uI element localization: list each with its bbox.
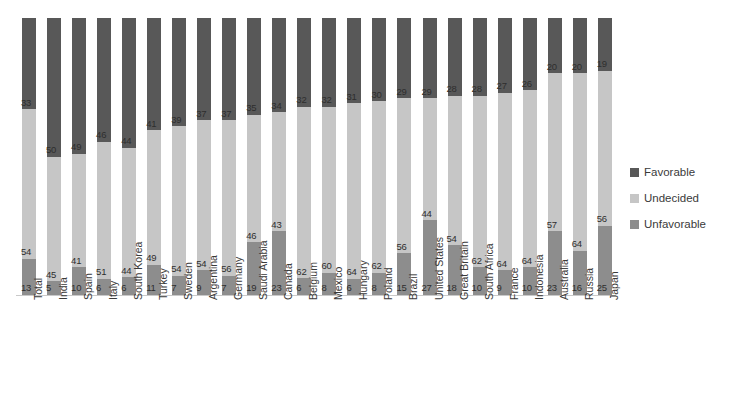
value-label-undecided: 64 bbox=[497, 259, 507, 269]
bar-segment-undecided: 54 bbox=[448, 96, 462, 246]
x-tick-label: United States bbox=[434, 237, 445, 300]
value-label-favorable: 50 bbox=[46, 145, 56, 155]
value-label-favorable: 19 bbox=[597, 59, 607, 69]
x-tick-sweden: Sweden bbox=[172, 298, 186, 406]
bar-segment-favorable: 28 bbox=[448, 18, 462, 96]
bar-segment-undecided: 44 bbox=[423, 98, 437, 220]
value-label-undecided: 57 bbox=[547, 220, 557, 230]
value-label-undecided: 62 bbox=[371, 261, 381, 271]
bar-group: 39547 bbox=[172, 18, 186, 295]
bar-group: 205723 bbox=[548, 18, 562, 295]
value-label-unfavorable: 27 bbox=[422, 283, 432, 293]
value-label-undecided: 64 bbox=[522, 256, 532, 266]
x-tick-label: Great Britain bbox=[459, 241, 470, 300]
x-tick-saudi-arabia: Saudi Arabia bbox=[247, 298, 261, 406]
value-label-favorable: 34 bbox=[271, 101, 281, 111]
value-label-unfavorable: 8 bbox=[371, 283, 376, 293]
bar-segment-undecided: 64 bbox=[573, 73, 587, 250]
value-label-favorable: 28 bbox=[472, 84, 482, 94]
value-label-undecided: 56 bbox=[221, 264, 231, 274]
bar-segment-favorable: 30 bbox=[372, 18, 386, 101]
bar-segment-favorable: 20 bbox=[573, 18, 587, 73]
legend-item-favorable[interactable]: Favorable bbox=[630, 166, 748, 178]
value-label-undecided: 44 bbox=[121, 266, 131, 276]
x-tick-turkey: Turkey bbox=[147, 298, 161, 406]
value-label-undecided: 64 bbox=[346, 267, 356, 277]
value-label-unfavorable: 5 bbox=[46, 283, 51, 293]
bar-segment-undecided: 49 bbox=[147, 130, 161, 264]
x-tick-hungary: Hungary bbox=[347, 298, 361, 406]
x-tick-great-britain: Great Britain bbox=[448, 298, 462, 406]
x-tick-label: South Africa bbox=[484, 243, 495, 300]
bar-group: 344323 bbox=[272, 18, 286, 295]
bar-segment-favorable: 46 bbox=[97, 18, 111, 142]
x-tick-label: Russia bbox=[584, 268, 595, 300]
x-tick-label: Australia bbox=[559, 259, 570, 300]
x-tick-france: France bbox=[498, 298, 512, 406]
value-label-undecided: 51 bbox=[96, 267, 106, 277]
bar-segment-undecided: 51 bbox=[97, 142, 111, 279]
bar-segment-undecided: 64 bbox=[523, 90, 537, 267]
bar-segment-undecided: 62 bbox=[473, 96, 487, 268]
value-label-favorable: 20 bbox=[572, 62, 582, 72]
bar-group: 37549 bbox=[197, 18, 211, 295]
value-label-unfavorable: 16 bbox=[572, 283, 582, 293]
value-label-undecided: 54 bbox=[21, 247, 31, 257]
x-tick-label: Hungary bbox=[358, 260, 369, 300]
x-tick-indonesia: Indonesia bbox=[523, 298, 537, 406]
bar-segment-undecided: 54 bbox=[172, 126, 186, 276]
x-tick-label: Sweden bbox=[183, 262, 194, 300]
bar-group: 195625 bbox=[598, 18, 612, 295]
x-tick-russia: Russia bbox=[573, 298, 587, 406]
value-label-unfavorable: 10 bbox=[522, 283, 532, 293]
value-label-unfavorable: 23 bbox=[547, 283, 557, 293]
value-label-favorable: 31 bbox=[346, 92, 356, 102]
bar-segment-favorable: 34 bbox=[272, 18, 286, 112]
bar-group: 31646 bbox=[347, 18, 361, 295]
x-tick-germany: Germany bbox=[222, 298, 236, 406]
value-label-unfavorable: 7 bbox=[171, 283, 176, 293]
x-tick-label: Italy bbox=[108, 281, 119, 300]
plot-area: 3354135045549411046516444464149113954737… bbox=[22, 18, 612, 295]
value-label-undecided: 64 bbox=[572, 239, 582, 249]
x-tick-belgium: Belgium bbox=[297, 298, 311, 406]
bar-segment-favorable: 29 bbox=[423, 18, 437, 98]
value-label-undecided: 54 bbox=[447, 234, 457, 244]
value-label-undecided: 49 bbox=[146, 253, 156, 263]
value-label-undecided: 44 bbox=[422, 209, 432, 219]
bar-group: 32608 bbox=[322, 18, 336, 295]
bar-segment-undecided: 43 bbox=[272, 112, 286, 231]
legend-item-undecided[interactable]: Undecided bbox=[630, 192, 748, 204]
bar-segment-favorable: 35 bbox=[247, 18, 261, 115]
bar-segment-undecided: 64 bbox=[347, 103, 361, 279]
x-tick-label: Japan bbox=[609, 271, 620, 300]
bar-segment-undecided: 57 bbox=[548, 73, 562, 231]
legend-item-unfavorable[interactable]: Unfavorable bbox=[630, 218, 748, 230]
bar-segment-favorable: 37 bbox=[222, 18, 236, 120]
bar-segment-undecided: 46 bbox=[247, 115, 261, 242]
bar-segment-undecided: 56 bbox=[222, 120, 236, 275]
value-label-favorable: 27 bbox=[497, 81, 507, 91]
x-axis-category-labels: TotalIndiaSpainItalySouth KoreaTurkeySwe… bbox=[22, 298, 612, 406]
x-tick-label: Brazil bbox=[408, 274, 419, 300]
value-label-favorable: 46 bbox=[96, 130, 106, 140]
value-label-favorable: 37 bbox=[196, 109, 206, 119]
x-tick-label: Germany bbox=[233, 257, 244, 300]
value-label-undecided: 54 bbox=[171, 264, 181, 274]
value-label-undecided: 56 bbox=[597, 214, 607, 224]
legend-swatch-icon bbox=[630, 168, 639, 177]
value-label-unfavorable: 13 bbox=[21, 283, 31, 293]
chart-legend: FavorableUndecidedUnfavorable bbox=[630, 166, 748, 244]
x-tick-argentina: Argentina bbox=[197, 298, 211, 406]
value-label-undecided: 60 bbox=[321, 261, 331, 271]
value-label-unfavorable: 19 bbox=[246, 283, 256, 293]
x-tick-italy: Italy bbox=[97, 298, 111, 406]
legend-label: Favorable bbox=[644, 166, 695, 178]
value-label-undecided: 56 bbox=[396, 242, 406, 252]
bar-segment-undecided: 62 bbox=[297, 107, 311, 279]
value-label-undecided: 54 bbox=[196, 259, 206, 269]
x-tick-japan: Japan bbox=[598, 298, 612, 406]
value-label-undecided: 46 bbox=[246, 231, 256, 241]
bar-segment-undecided: 60 bbox=[322, 107, 336, 273]
bar-segment-favorable: 32 bbox=[297, 18, 311, 107]
